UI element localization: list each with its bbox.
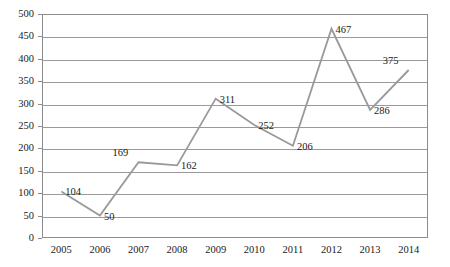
y-tick-label: 400 bbox=[18, 54, 34, 65]
y-tick-label: 150 bbox=[18, 166, 34, 177]
data-point-label: 162 bbox=[181, 161, 197, 172]
x-tick-label: 2012 bbox=[321, 245, 342, 256]
gridline bbox=[43, 60, 427, 61]
gridline bbox=[43, 172, 427, 173]
x-tick-label: 2005 bbox=[51, 245, 72, 256]
gridline bbox=[43, 149, 427, 150]
data-point-label: 467 bbox=[336, 25, 352, 36]
y-tick-label: 100 bbox=[18, 188, 34, 199]
y-tick-label: 0 bbox=[29, 233, 34, 244]
gridline bbox=[43, 82, 427, 83]
data-point-label: 104 bbox=[65, 187, 81, 198]
x-tick-label: 2010 bbox=[244, 245, 265, 256]
x-tick-label: 2008 bbox=[167, 245, 188, 256]
y-tick-label: 500 bbox=[18, 9, 34, 20]
data-point-label: 311 bbox=[220, 95, 235, 106]
gridline bbox=[43, 194, 427, 195]
x-tick-label: 2013 bbox=[360, 245, 381, 256]
gridline bbox=[43, 127, 427, 128]
x-tick-label: 2007 bbox=[128, 245, 149, 256]
data-point-label: 252 bbox=[258, 121, 274, 132]
y-tick-label: 450 bbox=[18, 31, 34, 42]
line-chart: 500450400350300250200150100500 104501691… bbox=[0, 0, 450, 267]
y-tick-label: 350 bbox=[18, 76, 34, 87]
y-tick-label: 50 bbox=[24, 210, 35, 221]
data-point-label: 375 bbox=[383, 56, 399, 67]
y-tick-label: 250 bbox=[18, 121, 34, 132]
x-tick-label: 2006 bbox=[89, 245, 110, 256]
data-point-label: 206 bbox=[297, 142, 313, 153]
data-point-label: 286 bbox=[374, 106, 390, 117]
y-tick-label: 300 bbox=[18, 98, 34, 109]
x-tick-label: 2011 bbox=[283, 245, 304, 256]
x-axis: 2005200620072008200920102011201220132014 bbox=[0, 243, 450, 263]
plot-area bbox=[42, 14, 428, 238]
y-tick-label: 200 bbox=[18, 143, 34, 154]
data-point-label: 50 bbox=[104, 212, 115, 223]
gridline bbox=[43, 37, 427, 38]
data-point-label: 169 bbox=[113, 148, 129, 159]
y-tick-mark bbox=[38, 238, 42, 239]
x-tick-label: 2009 bbox=[205, 245, 226, 256]
gridline bbox=[43, 217, 427, 218]
y-axis: 500450400350300250200150100500 bbox=[0, 0, 42, 267]
x-tick-label: 2014 bbox=[398, 245, 419, 256]
